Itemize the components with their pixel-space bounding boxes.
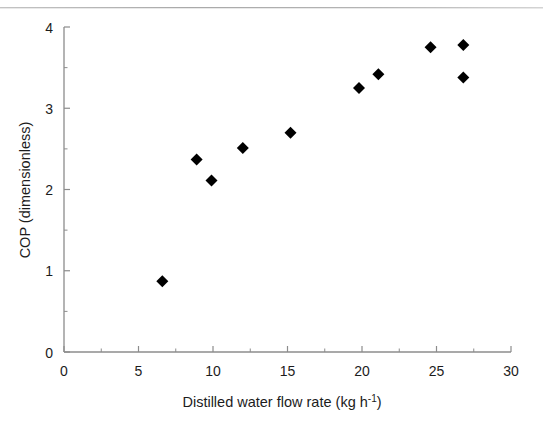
data-point-marker xyxy=(237,142,249,154)
data-point-marker xyxy=(284,127,296,139)
x-tick-label: 20 xyxy=(354,363,370,379)
data-point-marker xyxy=(191,153,203,165)
x-axis-ticks xyxy=(64,346,511,352)
x-tick-label: 30 xyxy=(503,363,519,379)
x-axis-title: Distilled water flow rate (kg h-1) xyxy=(182,393,381,411)
data-points xyxy=(156,39,469,287)
data-point-marker xyxy=(425,41,437,53)
x-axis-title-superscript: -1 xyxy=(368,393,377,404)
x-tick-label: 15 xyxy=(280,363,296,379)
data-point-marker xyxy=(372,68,384,80)
x-tick-label: 10 xyxy=(205,363,221,379)
data-point-marker xyxy=(457,39,469,51)
y-tick-label: 1 xyxy=(45,263,53,279)
x-tick-label: 25 xyxy=(429,363,445,379)
y-tick-label: 0 xyxy=(45,345,53,361)
x-tick-label: 0 xyxy=(60,363,68,379)
data-point-marker xyxy=(353,82,365,94)
chart-figure: 051015202530 01234 Distilled water flow … xyxy=(0,0,543,432)
data-point-marker xyxy=(457,71,469,83)
y-tick-label: 4 xyxy=(45,20,53,36)
x-axis-tick-labels: 051015202530 xyxy=(60,363,519,379)
y-axis-ticks xyxy=(64,27,70,352)
axes xyxy=(64,27,511,352)
y-tick-label: 3 xyxy=(45,101,53,117)
x-tick-label: 5 xyxy=(135,363,143,379)
scatter-plot: 051015202530 01234 Distilled water flow … xyxy=(0,0,543,432)
y-axis-tick-labels: 01234 xyxy=(45,20,53,361)
data-point-marker xyxy=(156,275,168,287)
data-point-marker xyxy=(206,175,218,187)
y-axis-title: COP (dimensionless) xyxy=(17,122,33,259)
y-tick-label: 2 xyxy=(45,182,53,198)
